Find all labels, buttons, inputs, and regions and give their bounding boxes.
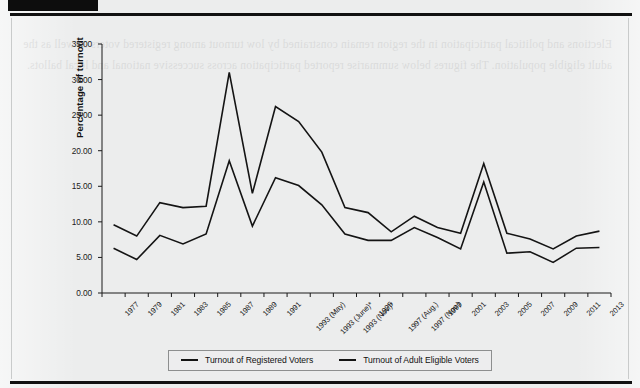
legend-label: Turnout of Adult Eligible Voters (363, 355, 479, 365)
series-line-adult-eligible-voters (114, 161, 600, 263)
rule-top (10, 13, 632, 16)
legend-swatch-icon (181, 359, 198, 361)
y-axis-tick-label: 20.00 (58, 146, 92, 156)
y-axis-title: Percentage of turnout (74, 37, 85, 138)
y-axis-tick-label: 25.00 (58, 110, 92, 120)
redacted-header-bar (8, 0, 98, 11)
rule-bottom (10, 381, 632, 384)
legend-entry-adult-eligible-voters: Turnout of Adult Eligible Voters (339, 355, 479, 365)
y-axis-tick-label: 35.00 (58, 39, 92, 49)
scanned-page: Elections and political participation in… (0, 0, 640, 388)
y-axis-tick-label: 5.00 (58, 252, 92, 262)
page-edge-right (628, 18, 629, 379)
turnout-line-chart: Percentage of turnout 0.005.0010.0015.00… (12, 18, 628, 378)
legend-label: Turnout of Registered Voters (205, 355, 313, 365)
y-axis-tick-label: 15.00 (58, 181, 92, 191)
chart-legend: Turnout of Registered Voters Turnout of … (168, 350, 492, 371)
y-axis-tick-label: 30.00 (58, 75, 92, 85)
y-axis-tick-label: 10.00 (58, 217, 92, 227)
legend-entry-registered-voters: Turnout of Registered Voters (181, 355, 313, 365)
y-axis-tick-label: 0.00 (58, 288, 92, 298)
legend-swatch-icon (339, 359, 356, 361)
series-line-registered-voters (114, 72, 600, 248)
